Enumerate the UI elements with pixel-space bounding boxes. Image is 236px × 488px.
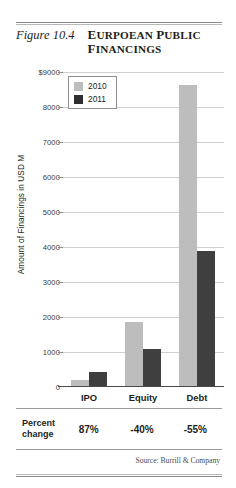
grid-area bbox=[62, 60, 224, 387]
bar-group-equity bbox=[125, 60, 161, 387]
bar-equity-2011 bbox=[143, 349, 161, 387]
percent-change-ipo: 87% bbox=[64, 424, 114, 435]
y-tick-8000: 8000 bbox=[16, 103, 60, 112]
legend-swatch-2010-icon bbox=[74, 82, 83, 91]
x-axis-category-labels: IPO Equity Debt bbox=[62, 392, 224, 403]
x-label-debt: Debt bbox=[170, 392, 224, 403]
y-tick-3000: 3000 bbox=[16, 278, 60, 287]
source-note: Source: Burrill & Company bbox=[135, 456, 220, 465]
y-tick-1000: 1000 bbox=[16, 348, 60, 357]
bar-equity-2010 bbox=[125, 322, 143, 387]
y-axis-tick-labels: $9000 8000 7000 6000 5000 4000 3000 2000… bbox=[16, 60, 60, 387]
top-rule bbox=[16, 22, 222, 25]
figure-number: Figure 10.4 bbox=[16, 28, 75, 43]
figure-title: EURPOEAN PUBLIC FINANCINGS bbox=[88, 28, 201, 56]
x-label-equity: Equity bbox=[116, 392, 170, 403]
bar-debt-2011 bbox=[197, 251, 215, 387]
y-tick-7000: 7000 bbox=[16, 138, 60, 147]
chart-legend: 2010 2011 bbox=[68, 76, 117, 109]
legend-label-2010: 2010 bbox=[88, 81, 107, 91]
bar-debt-2010 bbox=[179, 85, 197, 387]
y-tick-5000: 5000 bbox=[16, 208, 60, 217]
percent-change-debt: -55% bbox=[170, 424, 220, 435]
percent-change-table: Percent change 87% -40% -55% bbox=[16, 408, 222, 450]
bottom-rule bbox=[16, 474, 222, 477]
percent-change-header-line2: change bbox=[22, 429, 62, 440]
legend-label-2011: 2011 bbox=[88, 94, 106, 104]
y-tick-4000: 4000 bbox=[16, 243, 60, 252]
figure-container: Figure 10.4 EURPOEAN PUBLIC FINANCINGS A… bbox=[0, 0, 236, 488]
bar-group-ipo bbox=[71, 60, 107, 387]
figure-title-line1: EURPOEAN PUBLIC bbox=[88, 28, 201, 42]
percent-change-values: 87% -40% -55% bbox=[62, 424, 222, 435]
x-axis-line bbox=[58, 386, 224, 388]
figure-title-line2: FINANCINGS bbox=[88, 42, 201, 56]
bar-group-debt bbox=[179, 60, 215, 387]
y-tick-9000: $9000 bbox=[16, 68, 60, 77]
percent-change-header: Percent change bbox=[16, 418, 62, 440]
percent-change-equity: -40% bbox=[117, 424, 167, 435]
legend-item-2010: 2010 bbox=[74, 81, 107, 91]
legend-item-2011: 2011 bbox=[74, 94, 107, 104]
x-label-ipo: IPO bbox=[62, 392, 116, 403]
legend-swatch-2011-icon bbox=[74, 95, 83, 104]
percent-change-header-line1: Percent bbox=[22, 418, 62, 429]
y-tick-2000: 2000 bbox=[16, 313, 60, 322]
y-tick-6000: 6000 bbox=[16, 173, 60, 182]
y-tick-0: 0 bbox=[16, 383, 60, 392]
chart-plot-area: Amount of Financings in USD M $9000 8000… bbox=[0, 60, 236, 400]
bar-series-group bbox=[62, 60, 224, 387]
figure-caption: Figure 10.4 EURPOEAN PUBLIC FINANCINGS bbox=[16, 28, 222, 56]
